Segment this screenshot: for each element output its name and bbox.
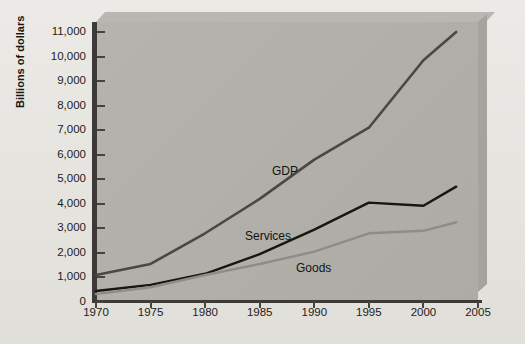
- series-label-goods: Goods: [296, 262, 331, 274]
- series-label-gdp: GDP: [272, 165, 298, 177]
- series-label-services: Services: [245, 230, 291, 242]
- series-lines: [0, 0, 525, 344]
- chart-figure: Billions of dollars 01,0002,0003,0004,00…: [0, 0, 525, 344]
